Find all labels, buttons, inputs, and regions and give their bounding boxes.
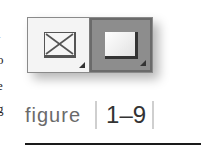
clipped-letter: e [0, 78, 3, 94]
clipped-body-text: l o e g [0, 0, 8, 155]
clipped-letter: g [0, 101, 4, 117]
corner-triangle-icon [140, 60, 146, 66]
caption-divider [95, 101, 97, 129]
corner-triangle-icon [79, 62, 85, 68]
filled-square-icon [105, 32, 138, 59]
figure-caption: figure 1–9 [25, 101, 154, 129]
caption-divider [152, 101, 154, 129]
no-fill-swatch-button[interactable] [28, 18, 90, 72]
clipped-letter: l [0, 26, 1, 42]
fill-stroke-swatch-group [27, 17, 153, 73]
figure-number: 1–9 [106, 101, 146, 129]
fill-swatch-button[interactable] [90, 18, 152, 72]
horizontal-rule [25, 143, 201, 145]
no-fill-x-icon [44, 32, 76, 58]
clipped-letter: o [0, 52, 4, 68]
caption-label: figure [25, 104, 81, 127]
